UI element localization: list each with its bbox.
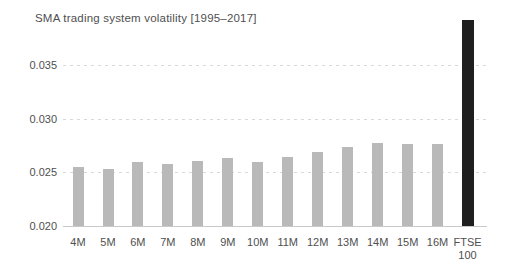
x-axis-baseline	[63, 226, 487, 227]
plot-area	[63, 0, 487, 227]
bar-FTSE-100	[462, 20, 474, 226]
bar-4M	[73, 167, 84, 226]
volatility-bar-chart: SMA trading system volatility [1995–2017…	[0, 0, 505, 272]
bar-16M	[432, 144, 443, 226]
bar-14M	[372, 143, 383, 226]
y-tick-label: 0.025	[0, 166, 57, 178]
bar-11M	[282, 157, 293, 226]
y-tick-label: 0.030	[0, 113, 57, 125]
bar-15M	[402, 144, 413, 226]
bar-5M	[103, 169, 114, 226]
bar-10M	[252, 162, 263, 226]
y-tick-label: 0.020	[0, 220, 57, 232]
gridline-0.035	[63, 65, 487, 66]
y-tick-label: 0.035	[0, 59, 57, 71]
bar-12M	[312, 152, 323, 226]
bar-9M	[222, 158, 233, 226]
bar-8M	[192, 161, 203, 227]
bar-7M	[162, 164, 173, 226]
gridline-0.030	[63, 119, 487, 120]
gridline-0.025	[63, 172, 487, 173]
x-tick-label-FTSE-100: FTSE100	[446, 236, 490, 262]
bar-13M	[342, 147, 353, 227]
bar-6M	[132, 162, 143, 226]
